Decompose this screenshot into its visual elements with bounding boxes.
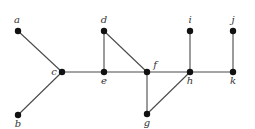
node-f <box>144 69 150 75</box>
node-label-c: c <box>51 66 57 77</box>
node-label-j: j <box>229 14 234 25</box>
node-label-d: d <box>101 14 107 25</box>
node-j <box>230 28 236 34</box>
graph-svg: abcdefghijk <box>0 0 255 129</box>
graph-diagram: abcdefghijk <box>0 0 255 129</box>
node-d <box>101 28 107 34</box>
node-label-h: h <box>187 75 193 86</box>
node-c <box>59 69 65 75</box>
edge-g-h <box>147 72 190 114</box>
node-label-k: k <box>230 75 236 86</box>
node-label-g: g <box>144 117 150 128</box>
edge-d-f <box>104 31 147 72</box>
node-label-i: i <box>188 14 191 25</box>
edge-b-c <box>18 72 62 115</box>
node-label-b: b <box>15 118 21 129</box>
node-a <box>15 28 21 34</box>
node-label-a: a <box>14 14 20 25</box>
node-label-f: f <box>152 59 159 70</box>
node-label-e: e <box>101 75 107 86</box>
node-i <box>187 28 193 34</box>
nodes-layer <box>15 28 236 118</box>
